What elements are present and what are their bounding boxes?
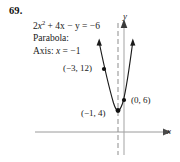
point-marker-intercept [122,98,126,102]
parabola-left-branch [100,44,119,111]
point-label-left: (−3, 12) [63,63,92,73]
graph-canvas [0,0,180,162]
point-label-vertex: (−1, 4) [81,108,106,118]
parabola-right-arrowhead [130,39,135,46]
parabola-left-arrowhead [97,39,102,46]
point-label-intercept: (0, 6) [131,95,151,105]
point-marker-left [102,67,106,71]
x-axis-label: x [167,126,171,136]
point-marker-vertex [116,108,121,113]
y-axis-label: y [123,11,127,21]
figure-container: 69. 2x2 + 4x − y = −6 Parabola: Axis: x … [0,0,180,162]
